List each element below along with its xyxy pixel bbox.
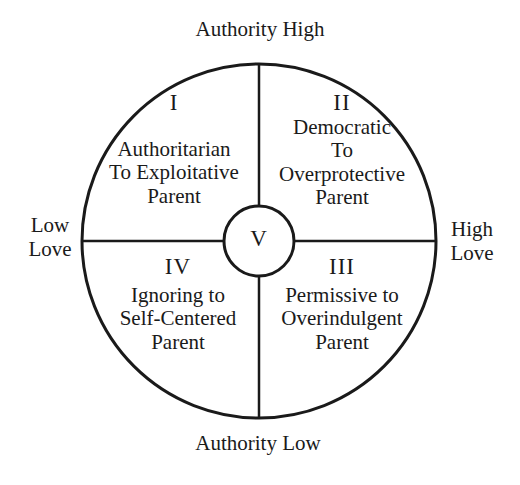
quadrant-iv-numeral: IV — [98, 254, 258, 280]
quadrant-i-line-3: Parent — [92, 185, 256, 209]
axis-label-low-love-line-1: Low — [18, 214, 82, 238]
axis-label-authority-high: Authority High — [160, 18, 360, 42]
quadrant-i-line-2: To Exploitative — [92, 161, 256, 185]
quadrant-iv-line-1: Ignoring to — [98, 284, 258, 308]
axis-label-authority-low: Authority Low — [158, 432, 358, 456]
quadrant-ii-line-2: To — [262, 139, 422, 163]
quadrant-iii-line-3: Parent — [262, 331, 422, 355]
quadrant-iv-line-3: Parent — [98, 331, 258, 355]
center-numeral: V — [250, 226, 268, 251]
quadrant-ii-numeral: II — [262, 90, 422, 116]
axis-label-low-love: Low Love — [18, 214, 82, 261]
quadrant-iii-line-1: Permissive to — [262, 284, 422, 308]
quadrant-ii-line-3: Overprotective — [262, 163, 422, 187]
quadrant-iii: III Permissive to Overindulgent Parent — [262, 254, 422, 354]
quadrant-ii-line-4: Parent — [262, 186, 422, 210]
quadrant-iv: IV Ignoring to Self-Centered Parent — [98, 254, 258, 354]
axis-label-authority-low-text: Authority Low — [195, 431, 320, 455]
quadrant-i: I Authoritarian To Exploitative Parent — [92, 90, 256, 208]
quadrant-ii-line-1: Democratic — [262, 116, 422, 140]
axis-label-low-love-line-2: Love — [18, 238, 82, 262]
axis-label-authority-high-text: Authority High — [196, 17, 325, 41]
parenting-style-diagram: Authority High Authority Low Low Love Hi… — [0, 0, 520, 485]
quadrant-iii-numeral: III — [262, 254, 422, 280]
quadrant-i-line-1: Authoritarian — [92, 138, 256, 162]
axis-label-high-love: High Love — [440, 218, 504, 265]
quadrant-iii-line-2: Overindulgent — [262, 307, 422, 331]
axis-label-high-love-line-1: High — [440, 218, 504, 242]
quadrant-iv-line-2: Self-Centered — [98, 307, 258, 331]
center-label: V — [239, 226, 279, 252]
axis-label-high-love-line-2: Love — [440, 242, 504, 266]
quadrant-i-numeral: I — [92, 90, 256, 116]
quadrant-ii: II Democratic To Overprotective Parent — [262, 90, 422, 210]
